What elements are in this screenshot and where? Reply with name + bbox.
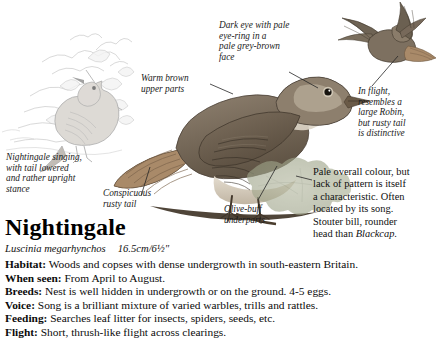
annotation-underparts: Olive-buff underparts bbox=[224, 204, 294, 225]
fact-label-feeding: Feeding: bbox=[5, 312, 47, 324]
fact-row-when-seen: When seen: From April to August. bbox=[5, 272, 437, 286]
fact-label-habitat: Habitat: bbox=[5, 258, 46, 270]
description-block: Pale overall colour, but lack of pattern… bbox=[313, 166, 439, 240]
desc-line-6-post: . bbox=[394, 228, 397, 239]
fact-text-feeding: Searches leaf litter for insects, spider… bbox=[47, 312, 275, 324]
bird-head bbox=[276, 77, 352, 125]
fact-row-habitat: Habitat: Woods and copses with dense und… bbox=[5, 258, 437, 272]
fact-row-voice: Voice: Song is a brilliant mixture of va… bbox=[5, 299, 437, 313]
desc-line-5: Stouter bill, rounder bbox=[313, 216, 397, 227]
scientific-name: Luscinia megarhynchos bbox=[5, 243, 106, 254]
bird-underparts bbox=[214, 176, 296, 204]
fact-text-voice: Song is a brilliant mixture of varied wa… bbox=[35, 299, 318, 311]
desc-line-3: a characteristic. Often bbox=[313, 191, 404, 202]
field-guide-page: Dark eye with pale eye-ring in a pale gr… bbox=[0, 0, 441, 342]
fact-label-when-seen: When seen: bbox=[5, 272, 62, 284]
desc-line-6-pre: head than bbox=[313, 228, 356, 239]
fact-row-breeds: Breeds: Nest is well hidden in undergrow… bbox=[5, 285, 437, 299]
bird-size: 16.5cm/6½" bbox=[118, 243, 170, 254]
fact-list: Habitat: Woods and copses with dense und… bbox=[5, 258, 437, 340]
flight-bird-illustration bbox=[338, 2, 436, 62]
wing-feathers bbox=[212, 139, 268, 190]
fact-text-flight: Short, thrush-like flight across clearin… bbox=[38, 326, 226, 338]
annotation-in-flight: In flight, resembles a large Robin, but … bbox=[358, 86, 440, 139]
fact-text-when-seen: From April to August. bbox=[62, 272, 165, 284]
dark-eye bbox=[324, 88, 331, 95]
desc-line-4: located by its song. bbox=[313, 203, 393, 214]
fact-label-flight: Flight: bbox=[5, 326, 38, 338]
fact-row-feeding: Feeding: Searches leaf litter for insect… bbox=[5, 312, 437, 326]
annotation-dark-eye: Dark eye with pale eye-ring in a pale gr… bbox=[219, 20, 327, 62]
page-title: Nightingale bbox=[5, 214, 126, 241]
annotation-rusty-tail: Conspicuous rusty tail bbox=[103, 188, 175, 209]
flight-rusty-tail bbox=[404, 46, 436, 62]
scientific-name-line: Luscinia megarhynchos16.5cm/6½" bbox=[5, 243, 169, 254]
bird-body bbox=[176, 95, 309, 179]
fact-label-breeds: Breeds: bbox=[5, 285, 42, 297]
desc-blackcap-reference: Blackcap bbox=[356, 228, 395, 239]
desc-line-2: lack of pattern is itself bbox=[313, 178, 406, 189]
fact-row-flight: Flight: Short, thrush-like flight across… bbox=[5, 326, 437, 340]
eye-ring bbox=[323, 87, 333, 97]
wing bbox=[199, 112, 300, 166]
fact-label-voice: Voice: bbox=[5, 299, 35, 311]
fact-text-habitat: Woods and copses with dense undergrowth … bbox=[46, 258, 358, 270]
desc-line-1: Pale overall colour, but bbox=[313, 166, 410, 177]
fact-text-breeds: Nest is well hidden in undergrowth or on… bbox=[42, 285, 331, 297]
annotation-upper-parts: Warm brown upper parts bbox=[141, 73, 226, 94]
